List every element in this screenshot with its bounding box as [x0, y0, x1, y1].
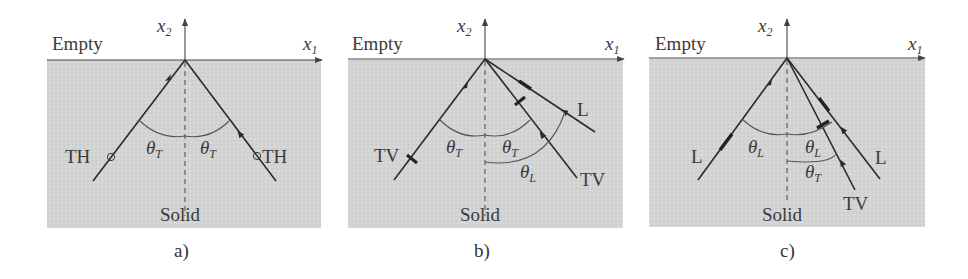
reflected-label-tv: TV — [843, 193, 869, 214]
x2-label: x2 — [757, 15, 772, 39]
panel-b: Empty Solid x2 x1 TV L TV θT θT θL b) — [348, 15, 624, 262]
caption-b: b) — [474, 240, 490, 262]
incident-label: TH — [65, 146, 91, 167]
reflection-diagram: Empty Solid x2 x1 TH TH θT θT a) Empty S… — [0, 0, 968, 279]
incident-label: L — [691, 146, 703, 167]
caption-c: c) — [780, 240, 795, 262]
x2-label: x2 — [156, 15, 171, 39]
solid-label: Solid — [460, 204, 501, 225]
empty-label: Empty — [52, 33, 103, 54]
reflected-label: TH — [262, 146, 288, 167]
solid-region — [47, 60, 321, 228]
reflected-label-l: L — [875, 147, 887, 168]
reflected-label-l: L — [577, 99, 589, 120]
solid-label: Solid — [160, 204, 201, 225]
solid-label: Solid — [762, 204, 803, 225]
panel-c: Empty Solid x2 x1 L L TV θL θL θT c) — [649, 15, 925, 262]
empty-label: Empty — [352, 33, 403, 54]
panel-a: Empty Solid x2 x1 TH TH θT θT a) — [47, 15, 322, 262]
x1-label: x1 — [907, 33, 922, 57]
reflected-label-tv: TV — [580, 169, 606, 190]
caption-a: a) — [174, 240, 189, 262]
x2-label: x2 — [456, 15, 471, 39]
empty-label: Empty — [655, 33, 706, 54]
incident-label: TV — [374, 145, 400, 166]
x1-label: x1 — [604, 33, 619, 57]
x1-label: x1 — [302, 33, 317, 57]
